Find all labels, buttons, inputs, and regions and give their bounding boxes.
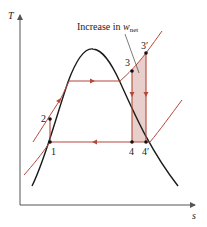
ts-diagram: T s 1 [0, 0, 207, 227]
point-3p [144, 51, 148, 55]
arrow-condensation [92, 140, 97, 145]
point-2 [48, 117, 52, 121]
saturation-dome [32, 49, 178, 186]
point-1 [48, 140, 52, 144]
label-4: 4 [129, 146, 134, 157]
shaded-work-area [132, 53, 146, 142]
label-3p: 3′ [141, 40, 148, 51]
arrow-evaporation [90, 79, 95, 84]
isobars [24, 31, 182, 175]
label-4p: 4′ [142, 146, 149, 157]
point-3 [130, 69, 134, 73]
point-4 [130, 140, 134, 144]
high-pressure-isobar-liquid [33, 81, 69, 142]
s-axis-label: s [192, 210, 196, 221]
annotation-text: Increase in wnet [77, 21, 138, 34]
label-2: 2 [41, 113, 46, 124]
axes: T s [8, 10, 196, 221]
low-pressure-isobar-liquid [24, 142, 50, 175]
t-axis-label: T [8, 10, 15, 21]
label-1: 1 [51, 146, 56, 157]
point-4p [144, 140, 148, 144]
low-pressure-isobar-superheat [150, 100, 182, 142]
arrow-liquid-heating [56, 98, 61, 103]
label-3: 3 [125, 57, 130, 68]
